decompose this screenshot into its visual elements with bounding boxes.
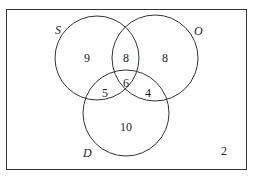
- region-s-and-o: 8: [123, 51, 129, 65]
- region-s-o-d: 6: [123, 76, 129, 90]
- region-d-only: 10: [120, 120, 132, 134]
- set-label-d: D: [82, 146, 92, 160]
- set-label-o: O: [194, 24, 203, 38]
- region-s-only: 9: [84, 51, 90, 65]
- set-label-s: S: [55, 23, 61, 37]
- region-outside: 2: [221, 144, 227, 158]
- region-o-only: 8: [162, 51, 168, 65]
- venn-diagram: S O D 9 8 8 5 6 4 10 2: [0, 0, 253, 180]
- region-s-and-d: 5: [102, 86, 108, 100]
- region-o-and-d: 4: [145, 86, 151, 100]
